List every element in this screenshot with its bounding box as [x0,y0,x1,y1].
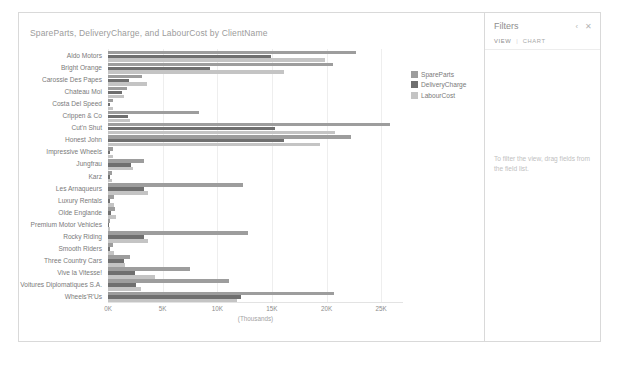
category-label[interactable]: Voitures Diplomatiques S.A. [20,280,102,287]
bar-group [108,49,403,61]
bar-group [108,254,403,266]
category-label[interactable]: Karz [88,172,102,179]
bar-group [108,109,403,121]
x-tick-label: 25K [376,305,387,312]
category-label[interactable]: Luxury Rentals [58,196,102,203]
tab-chart[interactable]: CHART [523,38,546,44]
tab-separator: | [516,38,518,44]
x-tick-label: 15K [266,305,277,312]
category-label[interactable]: Chateau Moi [65,88,102,95]
bar-group [108,121,403,133]
x-axis-title: (Thousands) [108,315,403,322]
bar-group [108,97,403,109]
x-tick-label: 0K [104,305,112,312]
category-label[interactable]: Wheels'R'Us [65,292,102,299]
chart-title: SpareParts, DeliveryCharge, and LabourCo… [30,28,268,38]
bar-group [108,218,403,230]
bar-group [108,290,403,302]
chart-legend[interactable]: SparePartsDeliveryChargeLabourCost [411,71,466,102]
bars-area[interactable] [108,49,403,302]
category-label[interactable]: Crippen & Co [62,112,102,119]
bar-group [108,230,403,242]
category-label[interactable]: Cut'n Shut [71,124,102,131]
legend-label: DeliveryCharge [421,81,466,88]
category-label[interactable]: Rocky Riding [63,232,102,239]
category-label[interactable]: Vive la Vitesse! [57,268,102,275]
filters-header: Filters ‹ ✕ [494,21,592,31]
category-label[interactable]: Olde Englande [58,208,102,215]
x-tick-label: 20K [321,305,332,312]
chart-pane[interactable]: SpareParts, DeliveryCharge, and LabourCo… [19,13,485,341]
bar-group [108,266,403,278]
category-label[interactable]: Honest John [65,136,102,143]
legend-item[interactable]: SpareParts [411,71,466,78]
category-label[interactable]: Impressive Wheels [46,148,102,155]
bar-group [108,194,403,206]
close-icon[interactable]: ✕ [585,23,592,31]
bar-group [108,169,403,181]
collapse-icon[interactable]: ‹ [576,23,579,31]
filters-pane[interactable]: Filters ‹ ✕ VIEW | CHART To filter the v… [485,13,600,341]
category-axis: Aldo MotorsBright OrangeCarossie Des Pap… [19,49,106,302]
bar-group [108,73,403,85]
x-axis-line [108,302,403,303]
legend-item[interactable]: LabourCost [411,92,466,99]
category-label[interactable]: Aldo Motors [67,52,102,59]
category-label[interactable]: Carossie Des Papes [42,76,102,83]
category-label[interactable]: Bright Orange [61,64,102,71]
legend-label: SpareParts [421,71,454,78]
filters-empty-message: To filter the view, drag fields from the… [494,154,590,173]
category-label[interactable]: Three Country Cars [44,256,102,263]
x-tick-label: 5K [159,305,167,312]
bar-group [108,157,403,169]
bar-group [108,145,403,157]
filters-tabs[interactable]: VIEW | CHART [494,38,546,44]
bar-group [108,278,403,290]
category-label[interactable]: Smooth Riders [58,244,102,251]
category-label[interactable]: Jungfrau [76,160,102,167]
filters-title: Filters [494,21,519,31]
bar-group [108,242,403,254]
tab-view[interactable]: VIEW [494,38,511,44]
category-label[interactable]: Les Arnaqueurs [56,184,102,191]
legend-swatch [411,71,418,78]
bar-group [108,61,403,73]
category-label[interactable]: Premium Motor Vehicles [31,220,102,227]
filters-divider [485,49,600,50]
x-tick-label: 10K [212,305,223,312]
bar-group [108,133,403,145]
bar-group [108,85,403,97]
legend-label: LabourCost [421,92,455,99]
legend-item[interactable]: DeliveryCharge [411,81,466,88]
legend-swatch [411,81,418,88]
bar-group [108,206,403,218]
bar-group [108,182,403,194]
category-label[interactable]: Costa Del Speed [52,100,102,107]
report-canvas: SpareParts, DeliveryCharge, and LabourCo… [18,12,601,342]
legend-swatch [411,92,418,99]
